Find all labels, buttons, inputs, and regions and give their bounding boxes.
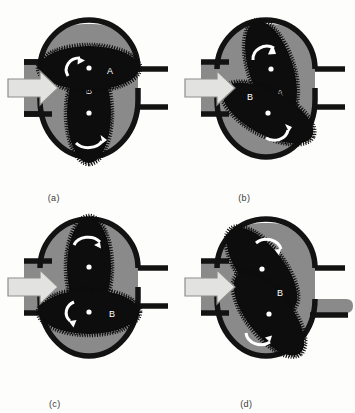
- panel-d-caption: (d): [138, 399, 355, 409]
- panel-b-caption: (b): [134, 193, 355, 203]
- discharge-flow-d: [298, 299, 353, 313]
- pump-cycle-figure: B A (a): [0, 0, 355, 413]
- rotor-a-shaft-b: [268, 66, 273, 71]
- rotor-b-shaft-c: [86, 309, 91, 314]
- rotor-a-shaft-a: [86, 65, 91, 70]
- rotor-a-label-a: A: [107, 66, 113, 76]
- rotor-b-label-c: B: [109, 309, 115, 319]
- panel-d: A B (d): [178, 207, 355, 413]
- rotor-b-label-d: B: [276, 288, 282, 298]
- rotor-b-shaft-b: [265, 110, 270, 115]
- rotor-b-label-b: B: [246, 92, 252, 102]
- panel-b: A B (b): [178, 0, 355, 207]
- rotor-a-shaft-c: [86, 264, 91, 269]
- rotor-b-shaft-a: [86, 110, 91, 115]
- panel-a: B A (a): [0, 0, 178, 207]
- rotor-a-shaft-d: [259, 266, 264, 271]
- rotor-b-shaft-d: [266, 311, 271, 316]
- panel-c: A B (c): [0, 207, 178, 413]
